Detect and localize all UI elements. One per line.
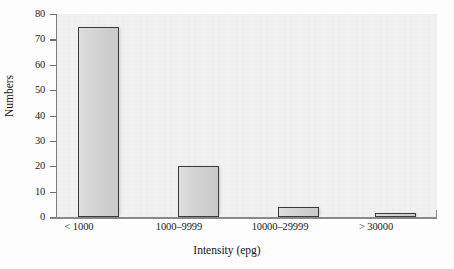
y-tick-label-0: 0 [19,212,45,223]
bar-1000-9999 [178,166,219,217]
bar-chart-figure: 0 10 20 30 40 50 60 70 80 Numbers < 1000… [0,0,454,269]
y-axis-title: Numbers [3,56,15,136]
bar-sheen [79,28,118,216]
y-tick-mark-60 [50,65,56,66]
y-tick-label-60: 60 [19,60,45,71]
y-tick-mark-0 [50,217,56,218]
y-tick-mark-50 [50,90,56,91]
y-tick-mark-20 [50,166,56,167]
x-tick-label-gt-30000: > 30000 [335,222,417,233]
x-axis-title: Intensity (epg) [0,244,454,256]
y-tick-label-10: 10 [19,187,45,198]
bars-layer [57,14,437,217]
x-tick-label-lt-1000: < 1000 [38,222,120,233]
bar-sheen [376,214,415,216]
bar-lt-1000 [78,27,119,217]
x-tick-label-10000-29999: 10000–29999 [235,222,325,233]
bar-gt-30000 [375,213,416,217]
y-tick-label-50: 50 [19,85,45,96]
y-tick-label-40: 40 [19,111,45,122]
bar-sheen [179,167,218,216]
y-tick-mark-70 [50,39,56,40]
y-tick-label-30: 30 [19,136,45,147]
y-tick-mark-30 [50,141,56,142]
y-tick-mark-10 [50,192,56,193]
y-tick-mark-80 [50,14,56,15]
bar-sheen [279,208,318,216]
bar-10000-29999 [278,207,319,217]
x-tick-label-1000-9999: 1000–9999 [138,222,220,233]
y-tick-mark-40 [50,116,56,117]
y-tick-label-80: 80 [19,9,45,20]
y-tick-label-70: 70 [19,34,45,45]
y-tick-label-20: 20 [19,161,45,172]
